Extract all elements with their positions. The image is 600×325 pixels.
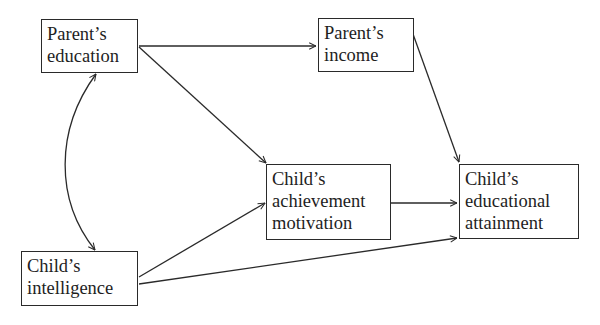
node-label-line: income [324, 44, 413, 66]
edge-parents-income-to-educational-attainment [413, 34, 459, 162]
node-parents-income: Parent’s income [318, 18, 414, 72]
node-label-line: Child’s [27, 255, 137, 277]
node-label-line: Parent’s [324, 22, 413, 44]
node-parents-education: Parent’s education [41, 19, 138, 73]
edge-intelligence-to-educational-attainment [139, 238, 457, 284]
path-diagram: Parent’s education Parent’s income Child… [0, 0, 600, 325]
node-childs-educational-attainment: Child’s educational attainment [459, 164, 579, 239]
node-childs-achievement-motivation: Child’s achievement motivation [266, 164, 391, 240]
node-label-line: motivation [272, 212, 390, 234]
node-label-line: educational [465, 190, 578, 212]
node-label-line: Child’s [465, 168, 578, 190]
node-label-line: education [47, 45, 137, 67]
node-label-line: attainment [465, 212, 578, 234]
node-label-line: Parent’s [47, 23, 137, 45]
edge-parents-education-to-achievement-motivation [139, 47, 266, 163]
node-label-line: Child’s [272, 168, 390, 190]
node-childs-intelligence: Child’s intelligence [21, 251, 138, 306]
node-label-line: achievement [272, 190, 390, 212]
edge-parents-education-intelligence-correlation [65, 74, 96, 250]
node-label-line: intelligence [27, 277, 137, 299]
edge-intelligence-to-achievement-motivation [139, 203, 265, 277]
